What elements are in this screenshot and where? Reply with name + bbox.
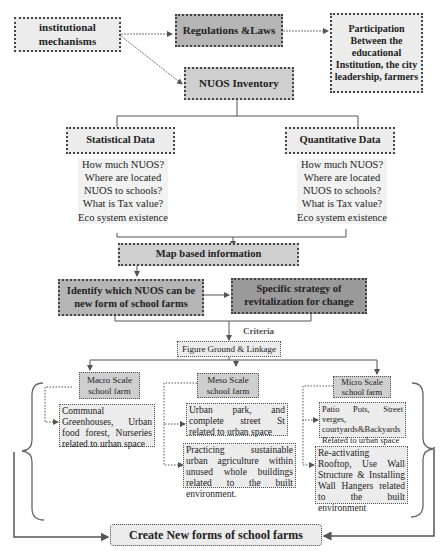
- statistical-data-node: Statistical Data: [66, 127, 175, 154]
- macro-scale-item: Communal Greenhouses, Urban food forest,…: [59, 404, 155, 447]
- participation-node: Participation Between the educational In…: [330, 13, 423, 93]
- map-based-information-node: Map based information: [118, 243, 299, 266]
- identify-nuos-node: Identify which NUOS can be new form of s…: [58, 279, 204, 316]
- question-line: What is Tax value?: [297, 197, 387, 210]
- question-line: Eco system existence: [297, 211, 387, 224]
- meso-scale-item-buildings: Practicing sustainable urban agriculture…: [183, 443, 296, 488]
- institutional-mechanisms-node: institutional mechanisms: [14, 17, 121, 52]
- macro-scale-node: Macro Scale school farm: [79, 372, 140, 399]
- question-line: NUOS to schools?: [297, 184, 387, 197]
- question-line: What is Tax value?: [78, 197, 168, 210]
- nuos-inventory-node: NUOS Inventory: [184, 67, 294, 100]
- statistical-questions: How much NUOS? Where are located NUOS to…: [78, 158, 168, 224]
- question-line: How much NUOS?: [78, 158, 168, 171]
- meso-scale-node: Meso Scale school farm: [197, 373, 259, 398]
- micro-scale-item-rooftop: Re-activating Rooftop, Use Wall Structur…: [315, 446, 408, 504]
- question-line: NUOS to schools?: [78, 184, 168, 197]
- question-line: Where are located: [78, 171, 168, 184]
- question-line: How much NUOS?: [297, 158, 387, 171]
- specific-strategy-node: Specific strategy of revitalization for …: [231, 278, 367, 314]
- create-new-forms-node: Create New forms of school farms: [110, 524, 322, 546]
- meso-scale-item-urban-park: Urban park, and complete street St relat…: [186, 403, 288, 436]
- figure-ground-linkage-node: Figure Ground & Linkage: [177, 341, 281, 357]
- question-line: Eco system existence: [78, 211, 168, 224]
- regulations-laws-node: Regulations &Laws: [175, 14, 283, 47]
- criteria-label: Criteria: [243, 326, 274, 336]
- quantitative-questions: How much NUOS? Where are located NUOS to…: [297, 158, 387, 224]
- micro-scale-node: Micro Scale school farm: [333, 376, 391, 398]
- question-line: Where are located: [297, 171, 387, 184]
- micro-scale-item-patio: Patio Pots, Street verges, courtyards&Ba…: [319, 402, 406, 438]
- quantitative-data-node: Quantitative Data: [285, 127, 395, 154]
